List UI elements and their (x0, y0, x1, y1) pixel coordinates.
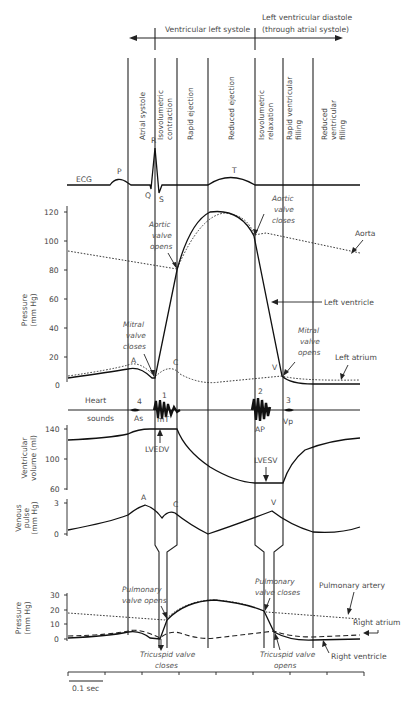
venous-axis-label-3: (mm Hg) (30, 501, 39, 535)
svg-text:3: 3 (54, 499, 59, 508)
svg-text:0: 0 (54, 530, 59, 539)
phase-rapid-filling-1: Rapid ventricular (285, 76, 294, 140)
as-label: As (134, 414, 143, 423)
aortic-opens-2: valve (152, 231, 172, 240)
svg-text:60: 60 (49, 295, 59, 304)
mitral-opens-2: valve (300, 337, 320, 346)
phase-isovol-contraction-1: Isovolumetric (156, 90, 165, 140)
ecg-p-wave: P (117, 167, 122, 176)
volume-axis-label-2: volume (ml) (29, 435, 38, 481)
cycle-header: Ventricular left systole Left ventricula… (129, 13, 352, 50)
lv-pressure-axis-label-1: Pressure (20, 293, 29, 326)
mt-label: mT (157, 415, 169, 424)
lvedv-label: LVEDV (145, 445, 170, 454)
s4-label: 4 (137, 397, 142, 406)
pulm-opens-2: valve opens (122, 596, 167, 605)
heart-sounds-label-1: Heart (85, 396, 106, 405)
ecg-trace: ECG P R Q S T (67, 136, 360, 204)
ecg-t-wave: T (231, 166, 237, 175)
pulm-closes-1: Pulmonary (255, 577, 295, 586)
tric-closes-1: Tricuspid valve (140, 650, 196, 659)
ap-label: AP (255, 425, 265, 434)
venous-wave-v: V (271, 498, 277, 507)
phase-dividers (128, 58, 313, 648)
s3-label: 3 (286, 396, 291, 405)
arrow-icon (340, 373, 345, 380)
aortic-opens-3: opens (150, 242, 172, 251)
phase-reduced-filling-1: Reduced (320, 108, 329, 140)
arrow-icon (162, 612, 167, 619)
svg-text:10: 10 (50, 620, 60, 629)
right-ventricle-curve (68, 600, 360, 640)
svg-text:120: 120 (44, 208, 59, 217)
left-ventricle-curve (68, 212, 360, 385)
right-atrium-label: Right atrium (353, 618, 400, 627)
svg-text:20: 20 (50, 606, 60, 615)
phase-labels: Atrial systole Isovolumetric contraction… (138, 76, 347, 140)
phase-isovol-contraction-2: contraction (165, 98, 174, 140)
phase-atrial-systole: Atrial systole (138, 92, 147, 140)
pulmonary-artery-label: Pulmonary artery (319, 581, 385, 590)
phase-reduced-ejection: Reduced ejection (227, 76, 236, 140)
aortic-closes-1: Aortic (271, 194, 294, 203)
svg-text:40: 40 (49, 324, 59, 333)
ecg-r-wave: R (151, 136, 157, 145)
svg-text:80: 80 (49, 266, 59, 275)
mitral-opens-1: Mitral (298, 326, 320, 335)
svg-text:0: 0 (54, 635, 59, 644)
volume-curve (68, 429, 360, 483)
lv-pressure-panel: 120 100 80 60 40 20 0 Pressure (mm Hg) A… (20, 194, 377, 390)
rv-pressure-axis-label-1: Pressure (14, 601, 23, 634)
s1-label: 1 (162, 391, 167, 400)
systole-label: Ventricular left systole (165, 25, 250, 34)
wiggers-diagram: Ventricular left systole Left ventricula… (0, 0, 408, 703)
lv-wave-c: C (173, 358, 178, 367)
arrow-left-icon (129, 35, 137, 41)
ventricular-volume-panel: 140 100 60 Ventricular volume (ml) LVEDV… (20, 425, 360, 494)
right-ventricle-label: Right ventricle (331, 652, 387, 661)
volume-axis-label-1: Ventricular (20, 437, 29, 479)
tric-closes-2: closes (155, 661, 178, 670)
mitral-closes-1: Mitral (123, 320, 145, 329)
heart-sounds-panel: Heart sounds 4 As 1 mT 2 AP 3 Vp (68, 387, 360, 434)
venous-wave-a: A (141, 493, 147, 502)
ecg-q-wave: Q (145, 191, 151, 200)
svg-text:100: 100 (44, 237, 59, 246)
phase-reduced-filling-3: filling (338, 120, 347, 140)
diastole-label-2: (through atrial systole) (262, 25, 349, 34)
lvesv-label: LVESV (254, 456, 278, 465)
s2-label: 2 (258, 387, 263, 396)
lv-pressure-ticks: 120 100 80 60 40 20 0 (44, 208, 67, 390)
heart-sounds-label-2: sounds (87, 414, 114, 423)
aorta-curve (68, 213, 360, 269)
svg-text:30: 30 (50, 591, 60, 600)
arrow-icon (271, 299, 278, 305)
phase-rapid-ejection: Rapid ejection (186, 87, 195, 140)
arrow-icon (264, 604, 269, 611)
phase-reduced-filling-2: ventricular (329, 99, 338, 140)
ecg-label: ECG (76, 175, 92, 184)
svg-text:100: 100 (45, 455, 60, 464)
phase-isovol-relaxation-2: relaxation (266, 103, 275, 140)
lv-wave-a: A (131, 356, 137, 365)
phase-rapid-filling-2: filling (294, 120, 303, 140)
s2-sound (252, 398, 270, 421)
tric-opens-2: opens (274, 661, 296, 670)
left-ventricle-label: Left ventricle (324, 298, 374, 307)
vp-label: Vp (283, 417, 293, 426)
lv-pressure-axis-label-2: (mm Hg) (29, 293, 38, 327)
left-atrium-curve (68, 364, 360, 383)
pulmonary-artery-curve (68, 600, 360, 620)
rv-pressure-panel: 30 20 10 0 Pressure (mm Hg) Pulmonary va… (14, 577, 400, 670)
venous-pulse-curve (68, 505, 360, 534)
rv-pressure-axis-label-2: (mm Hg) (23, 601, 32, 635)
mitral-closes-2: valve (126, 331, 146, 340)
s3-sound (284, 409, 294, 412)
aortic-closes-2: valve (274, 205, 294, 214)
arrow-icon (322, 640, 327, 647)
pulm-opens-1: Pulmonary (122, 585, 162, 594)
svg-text:60: 60 (50, 485, 60, 494)
phase-isovol-relaxation-1: Isovolumetric (257, 90, 266, 140)
venous-wave-c: C (173, 500, 178, 509)
arrow-right-icon (335, 35, 343, 41)
